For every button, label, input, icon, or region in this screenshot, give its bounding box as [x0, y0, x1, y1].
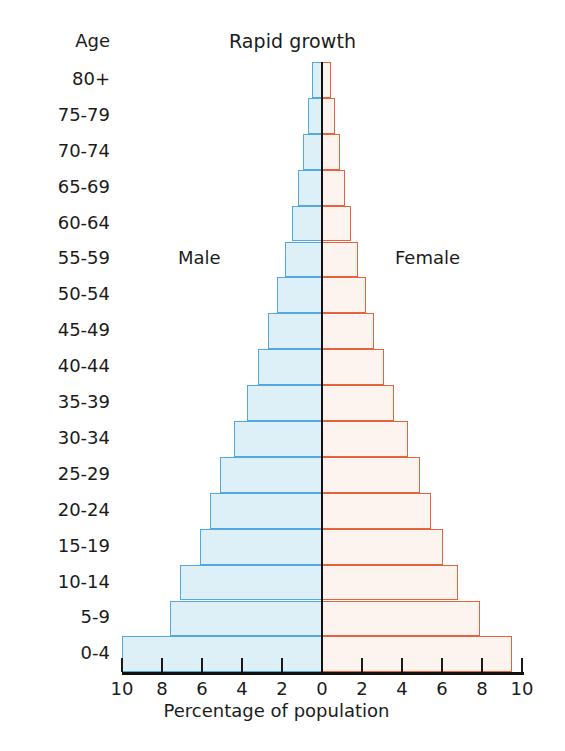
x-tick-label: 6 — [424, 678, 460, 699]
x-axis-line — [122, 672, 524, 674]
x-tick — [241, 658, 243, 672]
x-axis-title-text: Percentage of population — [164, 700, 390, 721]
age-label: 10-14 — [20, 571, 110, 592]
age-label: 35-39 — [20, 391, 110, 412]
age-label: 5-9 — [20, 606, 110, 627]
x-tick-label: 2 — [264, 678, 300, 699]
age-label: 65-69 — [20, 176, 110, 197]
age-label: 80+ — [20, 68, 110, 89]
x-tick-label: 6 — [184, 678, 220, 699]
bar-female — [322, 349, 384, 385]
bar-male — [303, 134, 322, 170]
population-pyramid-chart: Rapid growth Age 80+75-7970-7465-6960-64… — [0, 0, 565, 751]
bar-male — [285, 242, 322, 278]
bar-female — [322, 98, 335, 134]
bar-female — [322, 170, 345, 206]
bar-female — [322, 206, 351, 242]
x-tick — [201, 658, 203, 672]
bar-male — [268, 313, 322, 349]
center-axis-line — [321, 62, 323, 672]
x-tick-label: 10 — [104, 678, 140, 699]
x-axis-title: Percentage of population — [0, 700, 565, 721]
bar-male — [298, 170, 322, 206]
x-tick-label: 2 — [344, 678, 380, 699]
bar-male — [200, 529, 322, 565]
bar-male — [180, 565, 322, 601]
x-tick-label: 4 — [224, 678, 260, 699]
bar-female — [322, 313, 374, 349]
x-tick-label: 8 — [464, 678, 500, 699]
bar-female — [322, 421, 408, 457]
x-tick-label: 4 — [384, 678, 420, 699]
bar-female — [322, 277, 366, 313]
male-series-label: Male — [178, 247, 221, 268]
x-tick-label: 8 — [144, 678, 180, 699]
age-label: 40-44 — [20, 355, 110, 376]
chart-title-text: Rapid growth — [229, 30, 356, 52]
x-tick — [161, 658, 163, 672]
bar-female — [322, 457, 420, 493]
bar-female — [322, 242, 358, 278]
age-label: 25-29 — [20, 463, 110, 484]
female-series-label: Female — [395, 247, 460, 268]
x-tick-label: 10 — [504, 678, 540, 699]
x-tick — [401, 658, 403, 672]
age-label: 60-64 — [20, 212, 110, 233]
age-label: 20-24 — [20, 499, 110, 520]
x-tick — [441, 658, 443, 672]
age-axis-header: Age — [20, 30, 110, 51]
age-label: 30-34 — [20, 427, 110, 448]
x-tick — [521, 658, 523, 672]
x-tick-label: 0 — [304, 678, 340, 699]
x-tick — [121, 658, 123, 672]
age-label: 70-74 — [20, 140, 110, 161]
age-label: 75-79 — [20, 104, 110, 125]
x-tick — [281, 658, 283, 672]
bar-male — [170, 601, 322, 637]
bar-male — [210, 493, 322, 529]
bar-male — [258, 349, 322, 385]
age-label: 55-59 — [20, 247, 110, 268]
bar-male — [292, 206, 322, 242]
bar-female — [322, 134, 340, 170]
bar-female — [322, 529, 443, 565]
bar-female — [322, 601, 480, 637]
x-tick — [481, 658, 483, 672]
bar-female — [322, 385, 394, 421]
age-label: 50-54 — [20, 283, 110, 304]
bar-female — [322, 565, 458, 601]
bar-male — [277, 277, 322, 313]
bar-female — [322, 62, 331, 98]
age-label: 0-4 — [20, 642, 110, 663]
bar-female — [322, 636, 512, 672]
bar-male — [234, 421, 322, 457]
bar-male — [122, 636, 322, 672]
age-label: 45-49 — [20, 319, 110, 340]
age-label: 15-19 — [20, 535, 110, 556]
x-tick — [361, 658, 363, 672]
bar-male — [220, 457, 322, 493]
bar-male — [247, 385, 322, 421]
bar-female — [322, 493, 431, 529]
